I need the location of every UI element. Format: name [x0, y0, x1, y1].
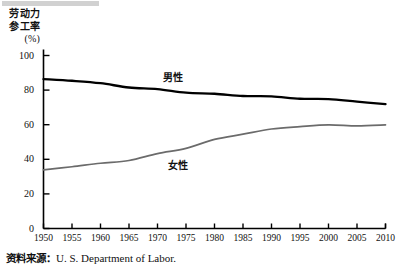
source-prefix: 资料来源： [6, 252, 56, 264]
labor-force-participation-chart: 劳动力 参工率 (%) 020406080100 195019551960196… [0, 0, 407, 270]
source-note: 资料来源：U. S. Department of Labor. [6, 252, 176, 265]
series-label-female: 女性 [168, 160, 189, 171]
series-line-female [44, 125, 386, 170]
series-group [44, 79, 386, 170]
source-body: U. S. Department of Labor. [56, 252, 176, 264]
plot-canvas [0, 0, 407, 270]
series-label-male: 男性 [163, 72, 184, 83]
series-line-male [44, 79, 386, 104]
